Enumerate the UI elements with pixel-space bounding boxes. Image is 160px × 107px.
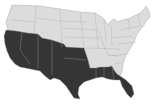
us-map	[0, 0, 160, 107]
